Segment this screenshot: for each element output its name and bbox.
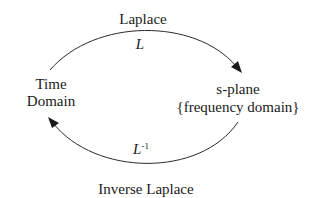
- laplace-label: Laplace: [119, 11, 166, 27]
- laplace-symbol: L: [136, 36, 144, 52]
- s-plane-line2: {frequency domain}: [176, 99, 299, 115]
- inverse-laplace-label: Inverse Laplace: [98, 181, 193, 197]
- time-domain-line1: Time: [35, 76, 66, 92]
- inverse-symbol-superscript: -1: [141, 141, 149, 151]
- s-plane-line1: s-plane: [216, 81, 259, 97]
- inverse-laplace-symbol: L-1: [133, 141, 149, 157]
- inverse-laplace-arrowhead: [48, 117, 59, 128]
- time-domain-line2: Domain: [27, 93, 75, 109]
